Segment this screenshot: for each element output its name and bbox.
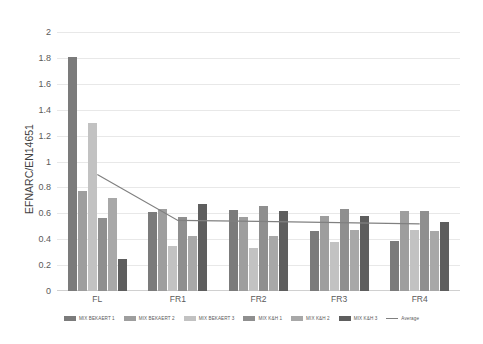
y-axis-tick-label: 0 xyxy=(46,286,51,296)
legend-item[interactable]: MIX BEKAERT 1 xyxy=(64,316,115,321)
y-axis-title-text: EFNARC/EN14651 xyxy=(23,94,35,244)
bar[interactable] xyxy=(68,57,77,291)
bar[interactable] xyxy=(188,236,197,291)
bar-group xyxy=(379,32,460,291)
legend-item-label: MIX BEKAERT 3 xyxy=(199,316,235,321)
x-axis-tick-label: FL xyxy=(92,294,102,304)
bar[interactable] xyxy=(158,209,167,291)
y-axis-tick-label: 0.6 xyxy=(38,208,51,218)
legend-line-swatch-icon xyxy=(386,318,398,320)
legend-item[interactable]: MIX BEKAERT 2 xyxy=(124,316,175,321)
legend-item[interactable]: MIX K&H 1 xyxy=(243,316,282,321)
bar[interactable] xyxy=(108,198,117,291)
legend-color-swatch-icon xyxy=(184,316,196,321)
x-axis-tick-label: FR1 xyxy=(170,294,186,304)
legend-item-label: MIX K&H 3 xyxy=(354,316,378,321)
legend-item-label: MIX K&H 1 xyxy=(258,316,282,321)
bar[interactable] xyxy=(340,209,349,291)
bar[interactable] xyxy=(430,231,439,291)
y-axis-title: EFNARC/EN14651 xyxy=(22,95,36,245)
bar[interactable] xyxy=(98,218,107,291)
x-axis-tick-label: FR4 xyxy=(412,294,428,304)
x-axis-tick-label: FR3 xyxy=(331,294,347,304)
legend-color-swatch-icon xyxy=(339,316,351,321)
bar-group xyxy=(299,32,380,291)
y-axis-tick-label: 1 xyxy=(46,157,51,167)
legend-color-swatch-icon xyxy=(243,316,255,321)
legend-item[interactable]: MIX K&H 3 xyxy=(339,316,378,321)
bar[interactable] xyxy=(229,210,238,291)
y-axis-tick-label: 1.2 xyxy=(38,131,51,141)
x-axis-tick-label: FR2 xyxy=(250,294,266,304)
legend-item[interactable]: MIX BEKAERT 3 xyxy=(184,316,235,321)
bar[interactable] xyxy=(198,204,207,291)
bar-group xyxy=(218,32,299,291)
bar[interactable] xyxy=(440,222,449,291)
bar[interactable] xyxy=(410,230,419,292)
bar-group xyxy=(57,32,138,291)
bar-group xyxy=(138,32,219,291)
bar[interactable] xyxy=(168,246,177,291)
bar[interactable] xyxy=(279,211,288,291)
legend-item-label: MIX K&H 2 xyxy=(306,316,330,321)
bar[interactable] xyxy=(259,206,268,291)
bar[interactable] xyxy=(350,230,359,291)
legend-item[interactable]: Average xyxy=(386,316,419,321)
bar[interactable] xyxy=(360,216,369,291)
y-axis-tick-label: 0.4 xyxy=(38,234,51,244)
bar[interactable] xyxy=(269,236,278,291)
bar[interactable] xyxy=(330,242,339,291)
y-axis-tick-label: 2 xyxy=(46,27,51,37)
chart-legend: MIX BEKAERT 1MIX BEKAERT 2MIX BEKAERT 3M… xyxy=(0,316,483,321)
x-axis-tick-labels: FLFR1FR2FR3FR4 xyxy=(57,294,460,308)
bar[interactable] xyxy=(420,211,429,291)
y-axis-tick-label: 0.8 xyxy=(38,182,51,192)
bar[interactable] xyxy=(400,211,409,291)
y-axis-tick-label: 0.2 xyxy=(38,260,51,270)
y-axis-tick-label: 1.6 xyxy=(38,79,51,89)
bar[interactable] xyxy=(78,191,87,291)
bar[interactable] xyxy=(239,217,248,291)
legend-item-label: Average xyxy=(401,316,419,321)
bar[interactable] xyxy=(118,259,127,291)
bar[interactable] xyxy=(88,123,97,291)
bar[interactable] xyxy=(310,231,319,291)
y-axis-tick-label: 1.4 xyxy=(38,105,51,115)
legend-item-label: MIX BEKAERT 2 xyxy=(139,316,175,321)
legend-item[interactable]: MIX K&H 2 xyxy=(291,316,330,321)
bar[interactable] xyxy=(320,216,329,291)
bar[interactable] xyxy=(390,241,399,292)
legend-color-swatch-icon xyxy=(124,316,136,321)
chart-container: EFNARC/EN14651 00.20.40.60.811.21.41.61.… xyxy=(0,0,483,344)
bars-layer xyxy=(57,32,460,291)
legend-color-swatch-icon xyxy=(64,316,76,321)
legend-item-label: MIX BEKAERT 1 xyxy=(79,316,115,321)
bar[interactable] xyxy=(148,212,157,291)
bar[interactable] xyxy=(249,248,258,291)
bar[interactable] xyxy=(178,217,187,291)
plot-area: 00.20.40.60.811.21.41.61.82 xyxy=(57,32,460,291)
legend-color-swatch-icon xyxy=(291,316,303,321)
y-axis-tick-label: 1.8 xyxy=(38,53,51,63)
